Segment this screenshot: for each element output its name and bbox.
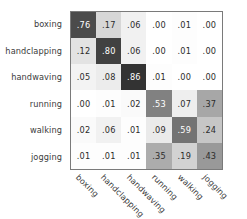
matrix-cell: .00: [146, 38, 171, 64]
matrix-cell: .24: [197, 117, 222, 143]
matrix-cell: .01: [121, 143, 146, 169]
row-label-walking: walking: [0, 117, 66, 144]
matrix-cell: .00: [197, 12, 222, 38]
matrix-cell: .02: [121, 90, 146, 116]
matrix-cell: .80: [96, 38, 121, 64]
matrix-cell: .53: [146, 90, 171, 116]
matrix-cell: .17: [96, 12, 121, 38]
col-label-walking: walking: [176, 172, 206, 202]
matrix-cell: .01: [121, 117, 146, 143]
matrix-cell: .00: [71, 90, 96, 116]
matrix-cell: .01: [146, 64, 171, 90]
matrix-cell: .37: [197, 90, 222, 116]
matrix-cell: .86: [121, 64, 146, 90]
matrix-cell: .06: [96, 117, 121, 143]
matrix-cell: .00: [172, 64, 197, 90]
matrix-cell: .05: [71, 64, 96, 90]
matrix-cell: .02: [71, 117, 96, 143]
matrix-cell: .59: [172, 117, 197, 143]
matrix-cell: .01: [172, 38, 197, 64]
row-label-handwaving: handwaving: [0, 64, 66, 91]
matrix-cell: .76: [71, 12, 96, 38]
col-label-boxing: boxing: [74, 172, 101, 199]
matrix-cell: .00: [197, 64, 222, 90]
matrix-cell: .43: [197, 143, 222, 169]
row-label-running: running: [0, 91, 66, 118]
matrix-cell: .06: [121, 12, 146, 38]
confusion-matrix-figure: boxing handclapping handwaving running w…: [0, 0, 247, 219]
matrix-cell: .00: [197, 38, 222, 64]
matrix-cell: .01: [96, 143, 121, 169]
matrix-cell: .09: [146, 117, 171, 143]
matrix-cell: .06: [121, 38, 146, 64]
row-label-handclapping: handclapping: [0, 38, 66, 65]
matrix-cell: .01: [71, 143, 96, 169]
column-axis-labels: boxing handclapping handwaving running w…: [70, 170, 223, 219]
matrix-cell: .01: [172, 12, 197, 38]
matrix-cell: .35: [146, 143, 171, 169]
matrix-cell: .01: [96, 90, 121, 116]
matrix-cell: .12: [71, 38, 96, 64]
matrix-cell: .08: [96, 64, 121, 90]
matrix-cell: .07: [172, 90, 197, 116]
row-label-jogging: jogging: [0, 144, 66, 171]
matrix-cell: .00: [146, 12, 171, 38]
row-label-boxing: boxing: [0, 11, 66, 38]
matrix-grid: .76 .17 .06 .00 .01 .00 .12 .80 .06 .00 …: [70, 11, 223, 170]
row-axis-labels: boxing handclapping handwaving running w…: [0, 11, 66, 170]
matrix-cell: .19: [172, 143, 197, 169]
col-label-jogging: jogging: [201, 172, 230, 201]
